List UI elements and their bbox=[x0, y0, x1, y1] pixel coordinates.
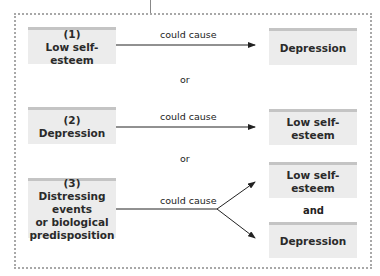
cause-label-line-2: or biological bbox=[35, 216, 108, 229]
relation-label-3: could cause bbox=[160, 195, 217, 206]
effect-label: Low self-esteem bbox=[269, 116, 357, 142]
cause-label-line-1: Distressing events bbox=[28, 190, 116, 216]
cause-label: Depression bbox=[39, 127, 105, 140]
effect-box-3b: Depression bbox=[269, 222, 357, 258]
cause-box-3: (3) Distressing events or biological pre… bbox=[28, 178, 116, 238]
arrow-3-lower bbox=[217, 209, 255, 238]
cause-box-1: (1) Low self-esteem bbox=[28, 27, 116, 64]
effect-label: Low self-esteem bbox=[269, 169, 357, 195]
cause-label: Low self-esteem bbox=[28, 41, 116, 67]
relation-label-2: could cause bbox=[160, 111, 217, 122]
arrow-3-upper bbox=[217, 182, 255, 209]
cause-label-line-3: predisposition bbox=[29, 229, 114, 242]
cause-box-2: (2) Depression bbox=[28, 107, 116, 144]
cause-number: (3) bbox=[64, 177, 81, 190]
effect-label: Depression bbox=[280, 42, 346, 55]
separator-or-2: or bbox=[180, 153, 190, 164]
separator-or-1: or bbox=[180, 74, 190, 85]
effect-box-1: Depression bbox=[269, 28, 357, 65]
cause-number: (2) bbox=[64, 114, 81, 127]
relation-label-1: could cause bbox=[160, 29, 217, 40]
cause-number: (1) bbox=[64, 28, 81, 41]
effect-box-2: Low self-esteem bbox=[269, 109, 357, 145]
effect-box-3a: Low self-esteem bbox=[269, 162, 357, 198]
effect-label: Depression bbox=[280, 235, 346, 248]
effects-joiner-and: and bbox=[303, 205, 324, 216]
